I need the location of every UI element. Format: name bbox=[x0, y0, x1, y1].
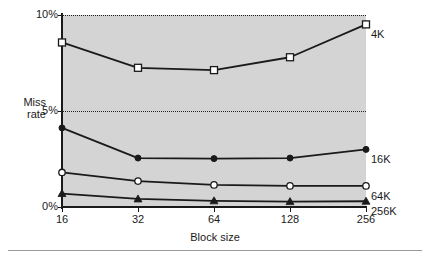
data-point-filled-circle bbox=[287, 155, 293, 161]
data-point-open-square bbox=[211, 67, 218, 74]
series-line-16K bbox=[62, 128, 366, 159]
series-label-16K: 16K bbox=[371, 154, 391, 165]
series-label-64K: 64K bbox=[371, 191, 391, 202]
data-point-open-square bbox=[59, 39, 66, 46]
chart-series-layer bbox=[0, 0, 430, 259]
data-point-open-circle bbox=[363, 183, 369, 189]
series-line-4K bbox=[62, 24, 366, 70]
data-point-open-circle bbox=[211, 182, 217, 188]
data-point-open-square bbox=[363, 21, 370, 28]
data-point-filled-circle bbox=[135, 155, 141, 161]
figure-bottom-rule bbox=[8, 250, 422, 251]
data-point-open-square bbox=[135, 64, 142, 71]
chart-figure: 0%5%10% 163264128256 Miss rate Block siz… bbox=[0, 0, 430, 259]
series-label-4K: 4K bbox=[371, 29, 384, 40]
data-point-open-circle bbox=[135, 178, 141, 184]
data-point-filled-circle bbox=[211, 156, 217, 162]
series-label-256K: 256K bbox=[371, 206, 397, 217]
data-point-open-square bbox=[287, 54, 294, 61]
data-point-open-circle bbox=[287, 183, 293, 189]
data-point-filled-circle bbox=[59, 125, 65, 131]
data-point-open-circle bbox=[59, 169, 65, 175]
data-point-filled-circle bbox=[363, 146, 369, 152]
